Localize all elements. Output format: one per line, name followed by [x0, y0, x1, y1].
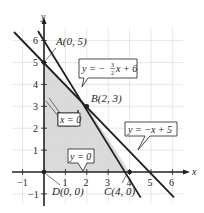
- eq1-prefix: y = −: [81, 63, 105, 74]
- grid: [12, 28, 183, 203]
- x-tick-2: 2: [84, 177, 89, 188]
- label-point-d: D(0, 0): [51, 185, 84, 198]
- eq3-text: x = 0: [59, 114, 81, 125]
- y-axis-label: y: [40, 11, 46, 22]
- point-b: [85, 104, 90, 109]
- y-tick-neg1: −1: [28, 189, 39, 200]
- point-a: [42, 60, 47, 65]
- y-tick-5: 5: [33, 57, 38, 68]
- eq2-text: y = −x + 5: [127, 124, 172, 135]
- eq1-numerator: 3: [111, 62, 114, 68]
- x-tick-6: 6: [169, 177, 174, 188]
- y-tick-6: 6: [33, 35, 38, 46]
- x-axis-arrow-icon: [183, 170, 190, 175]
- x-axis-label: x: [191, 166, 197, 177]
- y-tick-2: 2: [33, 123, 38, 134]
- y-tick-1: 1: [33, 145, 38, 156]
- x-tick-neg1: −1: [17, 177, 28, 188]
- eq1-denominator: 2: [111, 70, 114, 76]
- linear-programming-graph: −1 1 2 3 4 5 6 −1 1 2 3 4 5 6 y x A(0, 5…: [0, 0, 204, 213]
- y-tick-4: 4: [33, 79, 38, 90]
- label-point-b: B(2, 3): [91, 92, 122, 105]
- point-c: [127, 170, 132, 175]
- eq1-suffix: x + 6: [115, 63, 137, 74]
- leader-d: [46, 174, 60, 185]
- y-tick-3: 3: [33, 101, 38, 112]
- eq4-text: y = 0: [69, 151, 91, 162]
- label-point-a: A(0, 5): [55, 35, 87, 48]
- x-tick-5: 5: [148, 177, 153, 188]
- point-d: [42, 170, 47, 175]
- label-point-c: C(4, 0): [104, 185, 136, 198]
